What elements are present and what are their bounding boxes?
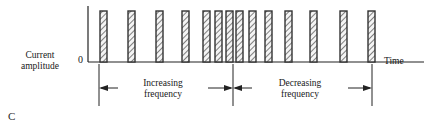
panel-letter: C [8, 110, 15, 122]
increasing-frequency-label: Increasing frequency [118, 78, 208, 99]
pulse-bar [203, 11, 210, 62]
pulse-bar [340, 11, 347, 62]
increasing-frequency-label-line2: frequency [120, 89, 206, 100]
y-axis-label-line1: Current [8, 50, 72, 61]
y-axis-label: Current amplitude [8, 50, 72, 71]
decreasing-frequency-label: Decreasing frequency [252, 78, 348, 99]
pulse-bar [236, 11, 243, 62]
pulse-bar [226, 11, 233, 62]
increasing-frequency-label-line1: Increasing [120, 78, 206, 89]
decreasing-frequency-label-line2: frequency [254, 89, 346, 100]
x-axis-label: Time [384, 56, 404, 66]
pulse-bar [249, 11, 256, 62]
pulse-bar [156, 11, 163, 62]
zero-axis-marker: 0 [71, 54, 83, 65]
pulse-bar [100, 11, 107, 62]
y-axis-label-line2: amplitude [8, 61, 72, 72]
pulse-group [100, 11, 375, 62]
pulse-bar [265, 11, 272, 62]
pulse-bar [215, 11, 222, 62]
pulse-bar [182, 11, 189, 62]
pulse-bar [128, 11, 135, 62]
pulse-bar [310, 11, 317, 62]
figure-panel-c: Current amplitude 0 Time Increasing freq… [0, 0, 426, 135]
decreasing-frequency-label-line1: Decreasing [254, 78, 346, 89]
pulse-bar [285, 11, 292, 62]
pulse-bar [368, 11, 375, 62]
